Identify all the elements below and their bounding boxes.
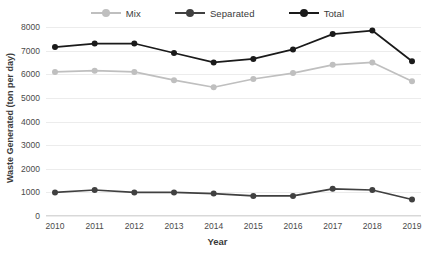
data-point-separated bbox=[211, 191, 217, 197]
data-point-mix bbox=[171, 77, 177, 83]
data-point-total bbox=[409, 58, 415, 64]
data-point-total bbox=[171, 50, 177, 56]
legend-item-mix[interactable]: Mix bbox=[91, 8, 141, 19]
legend-item-separated[interactable]: Separated bbox=[175, 8, 255, 19]
x-axis-tick-label: 2014 bbox=[204, 221, 223, 231]
x-axis-tick-label: 2017 bbox=[323, 221, 342, 231]
y-axis-title: Waste Generated (ton per day) bbox=[5, 43, 15, 193]
x-axis-tick-labels: 2010201120122013201420152016201720182019 bbox=[46, 221, 421, 235]
series-line-mix bbox=[55, 62, 412, 87]
x-axis-tick-label: 2010 bbox=[46, 221, 65, 231]
legend-marker-icon bbox=[289, 9, 319, 18]
data-point-total bbox=[92, 41, 98, 47]
data-point-separated bbox=[369, 187, 375, 193]
chart-legend: MixSeparatedTotal bbox=[0, 4, 435, 22]
legend-label: Separated bbox=[210, 8, 255, 19]
data-point-separated bbox=[330, 186, 336, 192]
data-point-separated bbox=[171, 189, 177, 195]
x-axis-tick-label: 2018 bbox=[363, 221, 382, 231]
x-axis-tick-label: 2013 bbox=[165, 221, 184, 231]
legend-label: Total bbox=[324, 8, 345, 19]
legend-label: Mix bbox=[126, 8, 141, 19]
data-point-mix bbox=[52, 69, 58, 75]
data-point-mix bbox=[290, 70, 296, 76]
data-point-separated bbox=[250, 193, 256, 199]
data-point-total bbox=[290, 46, 296, 52]
data-point-total bbox=[131, 41, 137, 47]
y-axis-title-wrap: Waste Generated (ton per day) bbox=[2, 27, 18, 216]
data-point-mix bbox=[409, 78, 415, 84]
data-point-separated bbox=[290, 193, 296, 199]
data-point-mix bbox=[211, 84, 217, 90]
data-point-mix bbox=[92, 68, 98, 74]
data-point-total bbox=[369, 28, 375, 34]
legend-marker-icon bbox=[91, 9, 121, 18]
x-axis-tick-label: 2016 bbox=[284, 221, 303, 231]
data-point-total bbox=[330, 31, 336, 37]
series-layer bbox=[46, 27, 421, 216]
data-point-mix bbox=[131, 69, 137, 75]
waste-generation-line-chart: MixSeparatedTotal 0100020003000400050006… bbox=[0, 0, 435, 256]
plot-area bbox=[46, 27, 421, 216]
legend-marker-icon bbox=[175, 9, 205, 18]
data-point-mix bbox=[250, 76, 256, 82]
data-point-separated bbox=[131, 189, 137, 195]
data-point-separated bbox=[92, 187, 98, 193]
data-point-total bbox=[211, 59, 217, 65]
series-line-separated bbox=[55, 189, 412, 200]
x-axis-tick-label: 2019 bbox=[403, 221, 422, 231]
data-point-mix bbox=[369, 59, 375, 65]
series-line-total bbox=[55, 31, 412, 63]
data-point-total bbox=[250, 56, 256, 62]
x-axis-tick-label: 2012 bbox=[125, 221, 144, 231]
x-axis-tick-label: 2015 bbox=[244, 221, 263, 231]
x-axis-tick-label: 2011 bbox=[86, 221, 104, 231]
data-point-separated bbox=[409, 196, 415, 202]
gridline bbox=[46, 216, 421, 217]
data-point-separated bbox=[52, 189, 58, 195]
legend-item-total[interactable]: Total bbox=[289, 8, 345, 19]
x-axis-title: Year bbox=[0, 236, 435, 247]
data-point-total bbox=[52, 44, 58, 50]
data-point-mix bbox=[330, 62, 336, 68]
